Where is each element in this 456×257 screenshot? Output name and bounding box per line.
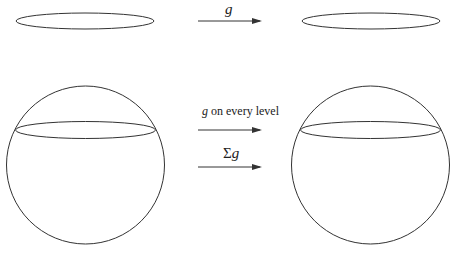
middle-arrow-2-label: Σg: [223, 145, 239, 162]
middle-arrow-1: [198, 127, 262, 133]
middle-arrow-1-label: g on every level: [202, 104, 279, 119]
top-right-ellipse: [302, 13, 440, 29]
on-every-level-text: on every level: [208, 104, 279, 118]
top-arrow: [198, 18, 262, 24]
right-sphere-equator: [301, 122, 441, 139]
g-variable: g: [232, 145, 240, 161]
sigma-symbol: Σ: [223, 145, 232, 161]
middle-arrow-2: [198, 164, 262, 170]
left-sphere-equator: [16, 122, 156, 139]
left-sphere: [7, 86, 165, 244]
top-left-ellipse: [16, 13, 154, 29]
top-arrow-label: g: [225, 1, 233, 18]
right-sphere: [292, 86, 450, 244]
diagram-canvas: [0, 0, 456, 257]
